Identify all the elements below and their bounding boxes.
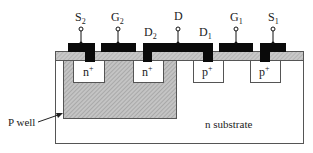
terminal-g2-node — [116, 27, 120, 31]
terminal-g1-node — [234, 27, 238, 31]
cmos-cross-section-diagram: S2 G2 D2 D D1 G1 S1 n+ n+ p+ p+ n substr… — [0, 0, 313, 153]
label-d2: D2 — [144, 25, 157, 41]
terminal-s1-node — [271, 27, 275, 31]
label-n-substrate: n substrate — [205, 118, 252, 130]
label-g2: G2 — [111, 10, 124, 26]
label-d: D — [174, 9, 183, 23]
terminal-d-node — [176, 27, 180, 31]
label-s1: S1 — [268, 10, 279, 26]
label-d1: D1 — [199, 25, 212, 41]
label-s2: S2 — [75, 10, 86, 26]
label-p-well: P well — [8, 116, 35, 128]
label-g1: G1 — [230, 10, 243, 26]
terminal-s2-node — [79, 27, 83, 31]
